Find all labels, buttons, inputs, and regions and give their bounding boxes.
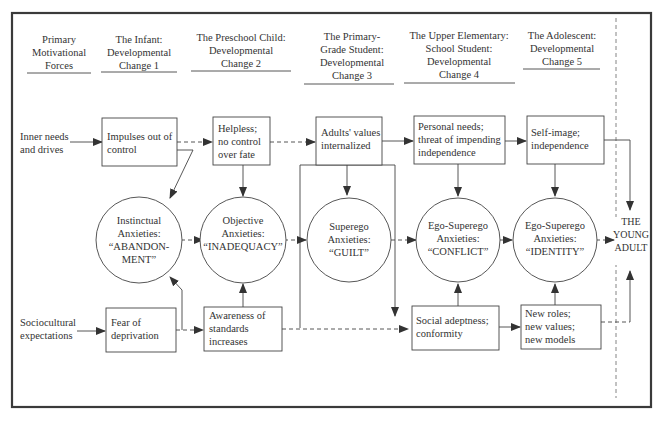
node-adults-values: Adults' values internalized	[316, 117, 382, 165]
force-label: and drives	[20, 144, 63, 155]
node-self-image: Self-image; independence	[527, 116, 604, 164]
force-label: Inner needs	[20, 131, 69, 142]
header-line: Forces	[45, 60, 73, 71]
header-line: Change 3	[332, 70, 372, 81]
node-objective-anxieties: Objective Anxieties: “INADEQUACY”	[200, 197, 286, 283]
node-text: Instinctual	[117, 215, 161, 226]
header-line: Developmental	[107, 47, 171, 58]
header-line: Change 5	[542, 56, 582, 67]
node-text: no control	[218, 136, 261, 147]
node-text: Personal needs;	[418, 121, 484, 132]
node-text: threat of impending	[418, 134, 502, 145]
node-text: New roles;	[525, 308, 571, 319]
node-text: Anxieties:	[221, 228, 264, 239]
header-line: Developmental	[320, 57, 384, 68]
header-line: The Infant:	[116, 34, 163, 45]
node-text: “INADEQUACY”	[203, 241, 283, 252]
node-text: Superego	[329, 221, 369, 232]
node-conflict-anxieties: Ego-Superego Anxieties: “CONFLICT”	[416, 198, 500, 282]
node-text: Awareness of	[209, 310, 266, 321]
node-text: Anxieties:	[117, 228, 160, 239]
node-text: Helpless;	[218, 123, 257, 134]
node-text: “ABANDON-	[109, 241, 170, 252]
header-line: Developmental	[530, 43, 594, 54]
node-helpless: Helpless; no control over fate	[213, 117, 270, 165]
node-instinctual-anxieties: Instinctual Anxieties: “ABANDON- MENT”	[96, 197, 182, 283]
header-line: Change 4	[439, 69, 480, 80]
header-line: The Primary-	[324, 31, 381, 42]
node-identity-anxieties: Ego-Superego Anxieties: “IDENTITY”	[513, 198, 597, 282]
node-text: over fate	[218, 149, 255, 160]
node-fear-of-deprivation: Fear of deprivation	[106, 308, 176, 352]
node-text: Impulses out of	[107, 131, 173, 142]
force-label: expectations	[20, 330, 72, 341]
node-text: YOUNG	[613, 229, 649, 240]
node-text: Fear of	[111, 317, 142, 328]
node-impulses: Impulses out of control	[102, 118, 177, 166]
header-line: The Adolescent:	[528, 30, 597, 41]
header-line: School Student:	[426, 43, 493, 54]
header-line: Developmental	[209, 45, 273, 56]
node-superego-anxieties: Superego Anxieties: “GUILT”	[307, 198, 391, 282]
node-text: new models	[525, 334, 575, 345]
node-text: Adults' values	[321, 127, 380, 138]
node-text: increases	[209, 336, 247, 347]
node-text: Ego-Superego	[428, 220, 488, 231]
node-text: Anxieties:	[533, 233, 576, 244]
node-text: standards	[209, 323, 249, 334]
node-text: control	[107, 144, 137, 155]
header-line: The Preschool Child:	[196, 32, 285, 43]
node-text: Anxieties:	[327, 234, 370, 245]
node-text: ADULT	[615, 242, 648, 253]
header-line: Grade Student:	[320, 44, 383, 55]
node-text: Anxieties:	[436, 233, 479, 244]
node-text: conformity	[416, 328, 463, 339]
header-line: The Upper Elementary:	[409, 30, 508, 41]
node-text: Social adeptness;	[416, 315, 489, 326]
node-personal-needs: Personal needs; threat of impending inde…	[414, 116, 505, 164]
node-text: “CONFLICT”	[428, 246, 489, 257]
node-text: new values;	[525, 321, 575, 332]
force-label: Sociocultural	[20, 317, 76, 328]
node-text: Ego-Superego	[525, 220, 585, 231]
header-line: Primary	[42, 34, 77, 45]
node-text: independence	[418, 147, 476, 158]
node-text: internalized	[321, 140, 371, 151]
node-text: deprivation	[111, 330, 160, 341]
node-social-adeptness: Social adeptness; conformity	[412, 306, 499, 350]
header-line: Developmental	[427, 56, 491, 67]
node-text: Self-image;	[531, 127, 580, 138]
node-text: “GUILT”	[329, 247, 369, 258]
node-young-adult: THE YOUNG ADULT	[613, 216, 649, 265]
node-text: independence	[531, 140, 589, 151]
node-text: MENT”	[122, 254, 157, 265]
node-awareness-of-standards: Awareness of standards increases	[204, 307, 282, 351]
node-text: “IDENTITY”	[526, 246, 585, 257]
node-text: Objective	[223, 215, 264, 226]
header-line: Change 2	[221, 58, 261, 69]
header-line: Change 1	[119, 60, 159, 71]
developmental-change-diagram: Primary Motivational Forces The Infant: …	[0, 0, 659, 422]
node-new-roles: New roles; new values; new models	[521, 305, 601, 349]
node-text: THE	[621, 216, 640, 227]
header-line: Motivational	[32, 47, 86, 58]
